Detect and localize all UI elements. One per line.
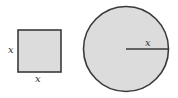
circle-figure: x [84,7,169,92]
circle-radius-label: x [145,37,151,48]
square-shape [18,30,61,72]
square-left-side-label: x [8,44,14,55]
square-bottom-side-label: x [35,73,41,84]
diagram-canvas: x x x [0,0,178,98]
square-figure: x x [8,30,61,84]
